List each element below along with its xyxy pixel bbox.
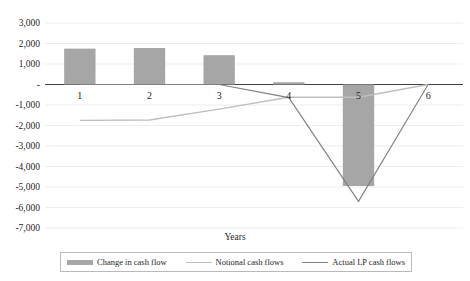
x-axis-tick-label: 2 (135, 90, 165, 101)
y-axis-tick-label: -3,000 (0, 141, 40, 151)
x-axis-title: Years (0, 232, 470, 243)
legend-item-notional-cash-flows[interactable]: Notional cash flows (186, 257, 284, 267)
legend-item-change-in-cash-flow[interactable]: Change in cash flow (67, 257, 167, 267)
legend-label-actual-lp-cash-flows: Actual LP cash flows (332, 257, 405, 267)
line-swatch-dark-icon (302, 262, 328, 263)
x-axis-tick-label: 5 (344, 90, 374, 101)
y-axis-tick-label: - (0, 80, 40, 90)
y-axis-tick-label: -4,000 (0, 162, 40, 172)
y-axis-tick-label: -2,000 (0, 121, 40, 131)
line-swatch-light-icon (186, 262, 212, 263)
y-axis-tick-label: -6,000 (0, 203, 40, 213)
y-axis-tick-label: 3,000 (0, 18, 40, 28)
y-axis-tick-label: -1,000 (0, 100, 40, 110)
bar-swatch-icon (67, 260, 93, 265)
legend-item-actual-lp-cash-flows[interactable]: Actual LP cash flows (302, 257, 405, 267)
y-axis-tick-label: 2,000 (0, 39, 40, 49)
legend-label-notional-cash-flows: Notional cash flows (216, 257, 284, 267)
chart-legend: Change in cash flow Notional cash flows … (60, 252, 412, 272)
cash-flow-chart: 3,0002,0001,000--1,000-2,000-3,000-4,000… (0, 0, 470, 281)
x-axis-tick-label: 4 (274, 90, 304, 101)
x-axis-tick-label: 3 (204, 90, 234, 101)
x-axis-tick-label: 1 (65, 90, 95, 101)
y-axis-tick-label: -5,000 (0, 182, 40, 192)
x-axis-tick-label: 6 (413, 90, 443, 101)
y-axis-tick-label: 1,000 (0, 59, 40, 69)
legend-label-change-in-cash-flow: Change in cash flow (97, 257, 167, 267)
